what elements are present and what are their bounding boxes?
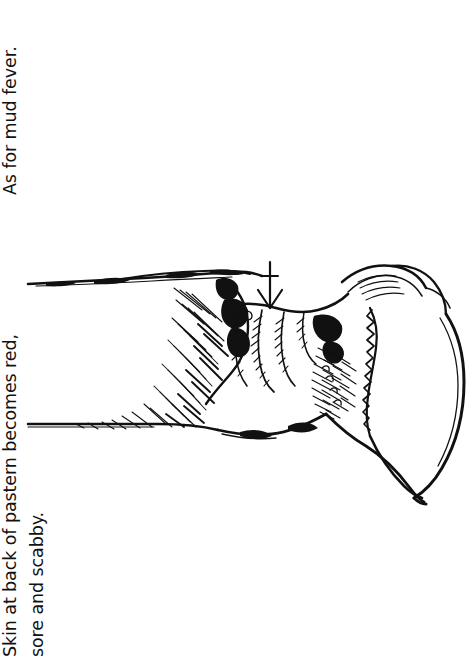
caption-line-1: Skin at back of pastern becomes red,: [2, 334, 20, 657]
horse-leg-illustration: [26, 228, 467, 548]
hoof-wall: [326, 308, 464, 504]
fetlock-heavy-hatching: [166, 324, 228, 427]
pastern-lower-blots: [240, 422, 318, 438]
caption-line-2: sore and scabby.: [29, 512, 47, 657]
caption-line-3: As for mud fever.: [2, 46, 20, 195]
arrow-marker: [258, 262, 282, 308]
coronet-band: [342, 266, 450, 314]
page-canvas: Skin at back of pastern becomes red, sor…: [0, 0, 467, 659]
